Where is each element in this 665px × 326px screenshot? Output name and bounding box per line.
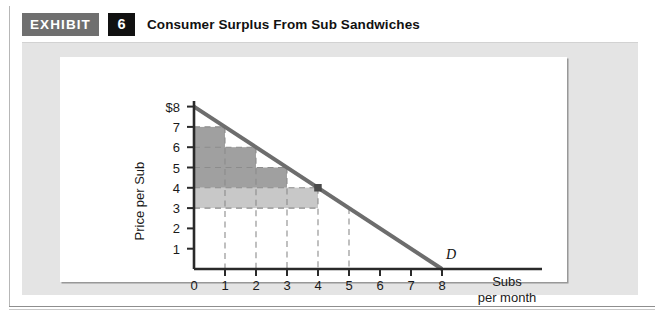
y-tick-label-4: 4: [150, 180, 180, 195]
y-axis-title: Price per Sub: [132, 131, 147, 241]
x-tick-label-3: 3: [283, 278, 290, 293]
y-tick-label-2: 2: [150, 221, 180, 236]
y-tick-label-7: 7: [150, 119, 180, 134]
exhibit-figure: EXHIBIT 6 Consumer Surplus From Sub Sand…: [0, 0, 665, 326]
x-tick-label-8: 8: [438, 278, 445, 293]
x-axis-title-line1: Subs: [492, 274, 522, 289]
chart-panel: $8 7 6 5 4 3 2 1 0 1 2 3 4 5 6 7 8 Price…: [22, 42, 638, 295]
x-tick-label-4: 4: [314, 278, 321, 293]
x-tick-label-6: 6: [376, 278, 383, 293]
x-tick-label-1: 1: [221, 278, 228, 293]
frame-rule-left: [9, 6, 10, 306]
exhibit-number-badge: 6: [108, 13, 135, 36]
x-tick-label-5: 5: [345, 278, 352, 293]
x-tick-label-7: 7: [407, 278, 414, 293]
y-tick-label-1: 1: [150, 241, 180, 256]
frame-rule-bottom-secondary: [9, 309, 655, 310]
origin-tick-label: 0: [190, 278, 197, 293]
y-tick-label-5: 5: [150, 160, 180, 175]
frame-rule-bottom: [9, 306, 655, 307]
y-tick-label-6: 6: [150, 140, 180, 155]
chart-svg: [22, 43, 638, 295]
demand-curve-label: D: [446, 247, 456, 263]
y-tick-label-3: 3: [150, 201, 180, 216]
x-axis-title: Subs per month: [452, 274, 562, 307]
x-axis-title-line2: per month: [478, 290, 537, 305]
exhibit-header: EXHIBIT 6 Consumer Surplus From Sub Sand…: [22, 13, 420, 36]
y-tick-label-8: $8: [150, 99, 180, 114]
equilibrium-point-marker: [314, 184, 322, 192]
x-tick-label-2: 2: [252, 278, 259, 293]
exhibit-title: Consumer Surplus From Sub Sandwiches: [147, 13, 420, 36]
exhibit-word-badge: EXHIBIT: [22, 13, 99, 36]
